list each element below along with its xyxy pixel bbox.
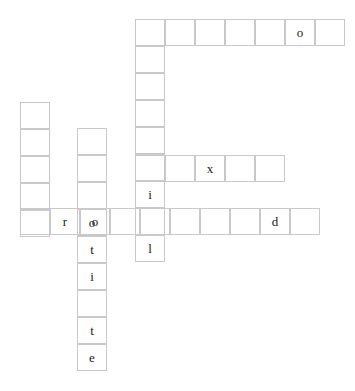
crossword-cell-filled[interactable]: e: [77, 344, 107, 371]
crossword-cell-empty[interactable]: [20, 102, 50, 129]
crossword-cell-empty[interactable]: [77, 155, 107, 182]
crossword-cell-empty[interactable]: [77, 290, 107, 317]
crossword-cell-filled[interactable]: r: [50, 208, 80, 235]
crossword-cell-filled[interactable]: i: [135, 181, 165, 208]
crossword-cell-empty[interactable]: [225, 155, 255, 182]
crossword-cell-empty[interactable]: [230, 208, 260, 235]
crossword-cell-filled[interactable]: x: [195, 155, 225, 182]
crossword-cell-empty[interactable]: [170, 208, 200, 235]
crossword-cell-filled[interactable]: t: [77, 236, 107, 263]
crossword-cell-empty[interactable]: [140, 208, 170, 235]
crossword-letter: r: [63, 215, 67, 228]
crossword-grid: oilotitexrod: [0, 0, 355, 391]
crossword-cell-empty[interactable]: [77, 128, 107, 155]
crossword-letter: o: [92, 215, 99, 228]
crossword-letter: e: [89, 351, 95, 364]
crossword-cell-empty[interactable]: [195, 19, 225, 46]
crossword-letter: t: [90, 243, 94, 256]
crossword-letter: t: [90, 324, 94, 337]
crossword-cell-empty[interactable]: [315, 19, 345, 46]
crossword-cell-empty[interactable]: [255, 155, 285, 182]
crossword-cell-empty[interactable]: [225, 19, 255, 46]
crossword-cell-empty[interactable]: [135, 127, 165, 154]
crossword-cell-filled[interactable]: i: [77, 263, 107, 290]
crossword-letter: i: [90, 270, 94, 283]
crossword-letter: l: [148, 242, 152, 255]
crossword-cell-empty[interactable]: [20, 208, 50, 235]
crossword-cell-filled[interactable]: o: [285, 19, 315, 46]
crossword-cell-empty[interactable]: [135, 46, 165, 73]
crossword-cell-empty[interactable]: [20, 129, 50, 156]
crossword-cell-empty[interactable]: [135, 155, 165, 182]
crossword-cell-empty[interactable]: [200, 208, 230, 235]
crossword-cell-empty[interactable]: [290, 208, 320, 235]
crossword-cell-empty[interactable]: [165, 19, 195, 46]
crossword-cell-empty[interactable]: [255, 19, 285, 46]
crossword-cell-empty[interactable]: [77, 182, 107, 209]
crossword-letter: x: [207, 162, 214, 175]
crossword-cell-empty[interactable]: [110, 208, 140, 235]
crossword-cell-empty[interactable]: [135, 19, 165, 46]
crossword-cell-filled[interactable]: t: [77, 317, 107, 344]
crossword-letter: o: [297, 26, 304, 39]
crossword-letter: i: [148, 188, 152, 201]
crossword-cell-filled[interactable]: l: [135, 235, 165, 262]
crossword-cell-empty[interactable]: [165, 155, 195, 182]
crossword-letter: d: [272, 215, 279, 228]
crossword-cell-empty[interactable]: [135, 73, 165, 100]
crossword-cell-empty[interactable]: [20, 156, 50, 183]
crossword-cell-empty[interactable]: [135, 100, 165, 127]
crossword-cell-filled[interactable]: o: [80, 208, 110, 235]
crossword-cell-filled[interactable]: d: [260, 208, 290, 235]
crossword-cell-empty[interactable]: [20, 183, 50, 210]
